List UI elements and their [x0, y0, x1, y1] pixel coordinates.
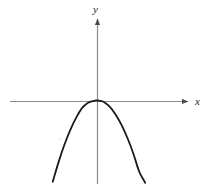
- scan-speck-artifact: [58, 137, 61, 140]
- y-axis-label: y: [92, 3, 98, 15]
- parabola-curve: [53, 100, 146, 182]
- parabola-figure: x y: [0, 0, 211, 190]
- x-axis-label: x: [194, 95, 200, 107]
- coordinate-plane-graph: x y: [0, 0, 211, 190]
